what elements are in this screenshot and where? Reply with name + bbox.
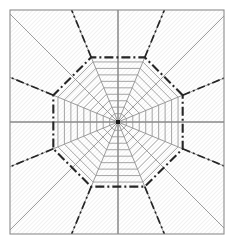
radial-mesh-figure bbox=[0, 0, 234, 247]
center-node-group bbox=[116, 120, 120, 124]
diagram-canvas bbox=[0, 0, 234, 247]
center-node-marker bbox=[116, 120, 120, 124]
